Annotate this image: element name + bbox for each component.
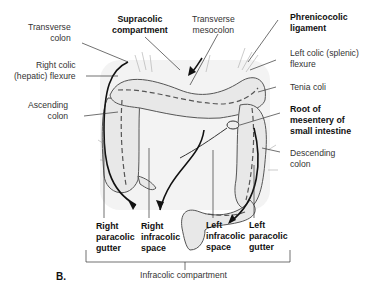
- label-root-of-mesentery: Root of mesentery of small intestine: [290, 104, 351, 137]
- small-intestine-stub: [227, 121, 239, 129]
- panel-label: B.: [56, 271, 66, 282]
- label-infracolic-compartment: Infracolic compartment: [140, 270, 227, 281]
- label-transverse-colon: Transverse colon: [28, 22, 71, 44]
- label-supracolic-compartment: Supracolic compartment: [112, 14, 168, 36]
- label-tenia-coli: Tenia coli: [290, 82, 326, 93]
- label-left-colic-flexure: Left colic (splenic) flexure: [290, 48, 359, 70]
- label-ascending-colon: Ascending colon: [28, 100, 68, 122]
- label-left-infracolic-space: Left infracolic space: [206, 220, 245, 253]
- label-right-colic-flexure: Right colic (hepatic) flexure: [14, 60, 76, 82]
- label-left-paracolic-gutter: Left paracolic gutter: [249, 220, 288, 253]
- label-right-infracolic-space: Right infracolic space: [141, 221, 180, 254]
- label-phrenicocolic-ligament: Phrenicocolic ligament: [290, 12, 348, 34]
- label-right-paracolic-gutter: Right paracolic gutter: [96, 221, 135, 254]
- label-descending-colon: Descending colon: [290, 148, 335, 170]
- label-transverse-mesocolon: Transverse mesocolon: [192, 14, 235, 36]
